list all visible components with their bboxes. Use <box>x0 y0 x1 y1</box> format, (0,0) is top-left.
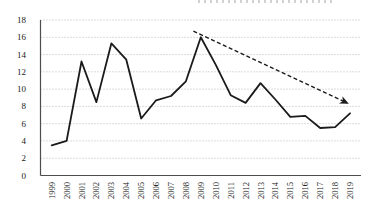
data-series-line <box>52 37 350 145</box>
y-axis-label: 18 <box>17 15 27 25</box>
x-axis-label: 2006 <box>151 182 161 199</box>
x-axis-label: 2008 <box>181 182 191 199</box>
x-axis-label: 2017 <box>315 182 325 199</box>
x-axis-label: 2013 <box>256 182 266 199</box>
x-axis-label: 2007 <box>166 182 176 199</box>
x-axis-label: 2005 <box>136 182 146 199</box>
y-axis-label: 16 <box>17 32 27 42</box>
y-axis-label: 14 <box>17 50 27 60</box>
y-axis-label: 12 <box>17 67 26 77</box>
x-axis-label: 2000 <box>62 182 72 199</box>
x-axis-label: 2002 <box>91 182 101 199</box>
x-axis-label: 2015 <box>285 182 295 199</box>
line-chart: 0246810121416181999200020012002200320042… <box>0 0 373 217</box>
x-axis-label: 2009 <box>196 182 206 199</box>
x-axis-label: 2010 <box>211 182 221 199</box>
y-axis-label: 10 <box>17 84 27 94</box>
x-axis-label: 2012 <box>241 182 251 199</box>
x-axis-label: 2001 <box>77 182 87 199</box>
y-axis-label: 8 <box>22 101 27 111</box>
x-axis-label: 2018 <box>330 182 340 199</box>
y-axis-label: 2 <box>22 153 27 163</box>
chart-canvas: 0246810121416181999200020012002200320042… <box>0 0 373 217</box>
x-axis-label: 1999 <box>47 182 57 199</box>
y-axis-label: 4 <box>22 136 27 146</box>
x-axis-label: 2016 <box>300 182 310 199</box>
x-axis-label: 2019 <box>345 182 355 199</box>
x-axis-label: 2011 <box>226 182 236 199</box>
y-axis-label: 6 <box>22 119 27 129</box>
x-axis-label: 2003 <box>106 182 116 199</box>
x-axis-label: 2004 <box>121 181 131 199</box>
x-axis-label: 2014 <box>270 181 280 199</box>
y-axis-label: 0 <box>22 171 27 181</box>
